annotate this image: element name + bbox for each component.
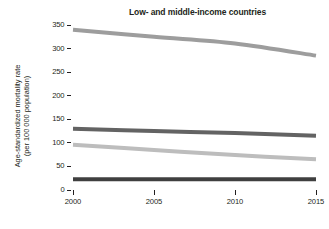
y-tick-mark xyxy=(67,119,71,120)
x-tick-label: 2000 xyxy=(53,197,93,206)
y-tick-300: 300 xyxy=(5,44,71,53)
y-tick-mark xyxy=(67,95,71,96)
x-tick-mark xyxy=(73,190,74,195)
y-tick-label: 250 xyxy=(52,67,64,76)
y-tick-200: 200 xyxy=(5,91,71,100)
y-tick-label: 350 xyxy=(52,20,64,29)
plot-lines xyxy=(73,25,316,190)
x-tick-mark xyxy=(235,190,236,195)
x-tick-label: 2010 xyxy=(215,197,255,206)
y-tick-mark xyxy=(67,48,71,49)
chart-container: Low- and middle-income countries Age-sta… xyxy=(0,0,329,229)
y-tick-mark xyxy=(67,142,71,143)
x-tick-label: 2015 xyxy=(296,197,329,206)
x-tick-2015: 2015 xyxy=(296,190,329,206)
y-tick-150: 150 xyxy=(5,114,71,123)
line-series-2 xyxy=(73,129,316,136)
line-series-3 xyxy=(73,145,316,160)
y-tick-100: 100 xyxy=(5,138,71,147)
y-tick-label: 150 xyxy=(52,114,64,123)
plot-area xyxy=(73,25,316,190)
chart-title: Low- and middle-income countries xyxy=(75,7,320,17)
x-tick-2005: 2005 xyxy=(134,190,174,206)
y-tick-250: 250 xyxy=(5,67,71,76)
y-tick-mark xyxy=(67,166,71,167)
x-axis-ticks: 2000200520102015 xyxy=(73,190,316,220)
y-tick-mark xyxy=(67,25,71,26)
x-tick-mark xyxy=(154,190,155,195)
y-tick-50: 50 xyxy=(5,161,71,170)
y-tick-label: 200 xyxy=(52,91,64,100)
x-tick-2010: 2010 xyxy=(215,190,255,206)
y-axis-ticks: 050100150200250300350 xyxy=(0,25,71,190)
y-tick-350: 350 xyxy=(5,20,71,29)
x-tick-mark xyxy=(316,190,317,195)
y-tick-label: 300 xyxy=(52,44,64,53)
x-tick-label: 2005 xyxy=(134,197,174,206)
y-tick-label: 50 xyxy=(56,161,64,170)
y-tick-label: 100 xyxy=(52,138,64,147)
x-tick-2000: 2000 xyxy=(53,190,93,206)
y-tick-mark xyxy=(67,72,71,73)
line-series-1 xyxy=(73,30,316,56)
